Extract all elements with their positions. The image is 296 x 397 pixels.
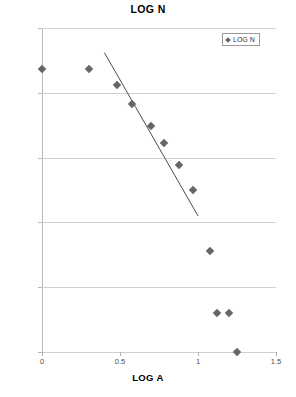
gridline-horizontal: [42, 93, 276, 94]
x-tick-label: 1: [196, 357, 200, 366]
y-tick-mark: [38, 158, 42, 159]
y-tick-mark: [38, 287, 42, 288]
gridline-horizontal: [42, 28, 276, 29]
y-tick-mark: [38, 93, 42, 94]
legend-series-label: LOG N: [233, 36, 255, 43]
x-tick-label: 0.5: [115, 357, 125, 366]
x-tick-label: 0: [40, 357, 44, 366]
chart-legend[interactable]: LOG N: [222, 33, 260, 46]
x-tick-mark: [276, 352, 277, 356]
y-tick-mark: [38, 222, 42, 223]
chart-title: LOG N: [0, 3, 296, 15]
gridline-horizontal: [42, 158, 276, 159]
chart-container: LOG N LOG N LOG A 0.000.501.001.502.002.…: [0, 0, 296, 397]
x-tick-mark: [42, 352, 43, 356]
gridline-horizontal: [42, 287, 276, 288]
x-tick-mark: [120, 352, 121, 356]
gridline-horizontal: [42, 222, 276, 223]
x-tick-mark: [198, 352, 199, 356]
x-tick-label: 1.5: [271, 357, 281, 366]
x-axis-title: LOG A: [0, 372, 296, 383]
y-tick-mark: [38, 28, 42, 29]
legend-diamond-icon: [225, 37, 231, 43]
plot-area: [42, 28, 276, 352]
